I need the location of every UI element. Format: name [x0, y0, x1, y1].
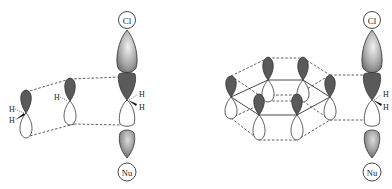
right-panel: Cl Nu H H: [225, 12, 389, 182]
ring-p-orbital-6: [291, 94, 303, 140]
carbon-light-lobe-right: [364, 100, 379, 126]
orbital-diagram: H H H Cl Nu H H: [0, 0, 392, 189]
nu-orbital-lobe: [119, 130, 134, 158]
nu-label: Nu: [122, 168, 133, 178]
nu-label-right: Nu: [367, 168, 378, 178]
h-sub-2: H: [139, 103, 145, 112]
h-label-2: H: [9, 116, 15, 125]
cl-label: Cl: [123, 16, 132, 26]
h-sub-right-2: H: [383, 103, 389, 112]
ring-p-orbital-5: [253, 94, 265, 140]
h-sub-1: H: [139, 90, 145, 99]
carbon-dark-lobe: [118, 73, 135, 101]
left-panel: H H H Cl Nu H H: [9, 12, 145, 182]
p-orbital-c1: [20, 90, 32, 138]
h-label-3: H: [54, 93, 60, 102]
ring-p-orbital-1: [225, 76, 237, 119]
h-sub-right-1: H: [383, 90, 389, 99]
cl-label-right: Cl: [368, 16, 377, 26]
nu-orbital-lobe-right: [364, 130, 379, 158]
ring-p-orbital-2: [262, 57, 274, 102]
h-label-1: H: [9, 105, 15, 114]
carbon-light-lobe: [119, 100, 134, 126]
carbon-dark-lobe-right: [363, 73, 380, 101]
cl-orbital-lobe: [117, 30, 137, 73]
cl-orbital-lobe-right: [362, 30, 382, 73]
ring-p-orbital-4: [324, 75, 336, 120]
p-orbital-c2: [64, 78, 76, 125]
